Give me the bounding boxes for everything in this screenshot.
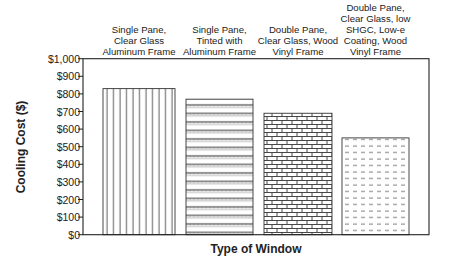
bar-2 <box>186 99 253 235</box>
category-label-1: Single Pane,Clear GlassAluminum Frame <box>97 24 181 57</box>
category-label-3: Double Pane,Clear Glass, WoodVinyl Frame <box>256 24 340 57</box>
y-tick-label: $0 <box>68 229 80 241</box>
y-tick-label: $600 <box>57 123 80 135</box>
y-tick-label: $800 <box>57 88 80 100</box>
y-axis-label: Cooling Cost ($) <box>14 101 28 194</box>
y-tick-label: $200 <box>57 194 80 206</box>
bar-1 <box>103 89 175 235</box>
y-tick-label: $700 <box>57 106 80 118</box>
x-axis-label: Type of Window <box>83 242 429 256</box>
y-tick-label: $400 <box>57 158 80 170</box>
y-tick-label: $100 <box>57 211 80 223</box>
category-label-4: Double Pane,Clear Glass, lowSHGC, Low-eC… <box>334 2 418 57</box>
y-tick-label: $300 <box>57 176 80 188</box>
y-tick-label: $500 <box>57 141 80 153</box>
bar-4 <box>342 138 409 235</box>
cooling-cost-chart: Single Pane,Clear GlassAluminum FrameSin… <box>0 0 450 264</box>
y-tick-label: $1,000 <box>48 53 80 65</box>
category-label-2: Single Pane,Tinted withAluminum Frame <box>178 24 262 57</box>
bar-3 <box>264 113 332 234</box>
y-tick-label: $900 <box>57 70 80 82</box>
bars <box>103 89 409 235</box>
